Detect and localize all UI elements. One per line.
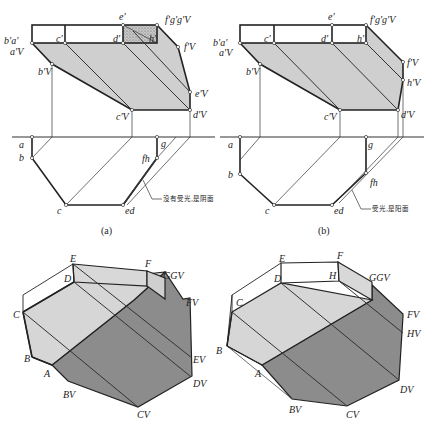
note-lit-face: 受光,是阳面 [372,204,409,213]
panel-b: b'a' a'V c' e' d' h' f'g'g'V f'V b'V h'V… [213,11,424,237]
label-a: a [19,139,24,150]
isometric-right: E D F H GGV FV HV C B A BV CV DV [216,250,422,420]
iso-label-HV: HV [406,328,422,339]
iso-label-E: E [69,253,76,264]
label-c-plan: c [57,205,62,216]
label-fh: fh [370,177,378,188]
iso-label-F: F [144,258,152,269]
iso-label-C: C [236,297,243,308]
iso-label-B: B [216,345,222,356]
label-fh: fh [142,153,150,164]
label-c: c' [264,33,271,44]
panel-a: b'a' a'V c' e' d' h' f'g'g'V f'V b'V e'V… [4,11,215,237]
iso-label-BV: BV [289,404,303,415]
isometric-left: E D F GGV FV C B A BV CV DV EV [13,253,208,420]
caption-a: (a) [101,225,112,237]
label-fgg: f'g'g'V [165,14,192,25]
label-g: g [161,138,166,149]
iso-label-CV: CV [346,409,361,420]
label-e-v: e'V [195,88,210,99]
label-c-v: c'V [324,111,339,122]
iso-label-A: A [43,368,51,379]
iso-label-CV: CV [137,409,152,420]
label-c-plan: c [265,205,270,216]
shadow-projection-figure: b'a' a'V c' e' d' h' f'g'g'V f'V b'V e'V… [0,0,434,443]
label-d-v: d'V [401,109,416,120]
label-a: a [228,139,233,150]
note-shaded-face: 没有受光,是阴面 [163,194,214,203]
label-d: d' [113,33,121,44]
label-d-v: d'V [193,109,208,120]
label-h: h' [357,33,365,44]
iso-label-H: H [328,270,337,281]
label-g: g [368,139,373,150]
label-e: e' [119,11,126,22]
label-b-v: b'V [38,66,53,77]
caption-b: (b) [318,225,330,237]
label-f-v: f'V [407,57,420,68]
label-d: d' [321,33,329,44]
label-c-v: c'V [116,111,131,122]
iso-label-GGV: GGV [369,272,391,283]
label-b-v: b'V [246,66,261,77]
iso-label-DV: DV [192,378,208,389]
label-fgg: f'g'g'V [370,14,397,25]
iso-label-DV: DV [399,384,415,395]
label-ed: ed [334,205,344,216]
label-c: c' [56,33,63,44]
label-ed: ed [125,205,135,216]
label-a-v: a'V [10,46,25,57]
label-a-v: a'V [219,47,234,58]
label-b: b [19,152,24,163]
label-b: b [228,169,233,180]
iso-label-FV: FV [406,309,421,320]
iso-label-A: A [254,368,262,379]
iso-label-GGV: GGV [163,270,185,281]
iso-label-C: C [13,309,20,320]
iso-label-BV: BV [63,389,77,400]
iso-label-E: E [278,253,285,264]
iso-label-EV: EV [192,354,207,365]
label-h: h' [149,33,157,44]
iso-label-D: D [63,273,72,284]
label-b-a: b'a' [4,35,19,46]
label-h-v: h'V [407,77,422,88]
iso-label-D: D [273,273,282,284]
label-e: e' [328,11,335,22]
label-f-v: f'V [184,41,197,52]
iso-label-FV: FV [185,297,200,308]
iso-label-F: F [336,250,344,261]
iso-label-B: B [24,353,30,364]
